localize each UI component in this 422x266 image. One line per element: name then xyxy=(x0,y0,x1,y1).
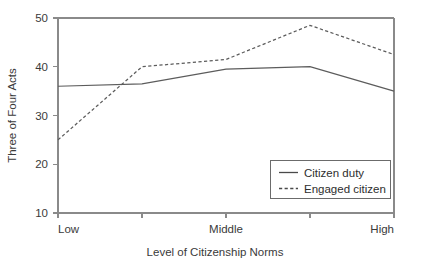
y-tick-label-50: 50 xyxy=(35,12,48,24)
chart-legend: Citizen duty Engaged citizen xyxy=(271,161,391,199)
y-tick-label-40: 40 xyxy=(35,61,48,73)
chart-figure: 50 40 30 20 10 Low Middle High Three of … xyxy=(0,0,422,266)
x-tick-label-low: Low xyxy=(58,223,80,235)
x-tick-label-middle: Middle xyxy=(209,223,243,235)
series-line-engaged-citizen xyxy=(58,25,394,140)
y-axis-title: Three of Four Acts xyxy=(6,68,18,163)
y-tick-label-20: 20 xyxy=(35,158,48,170)
x-axis-title: Level of Citizenship Norms xyxy=(147,246,284,258)
legend-label-engaged-citizen: Engaged citizen xyxy=(304,183,386,195)
y-tick-label-30: 30 xyxy=(35,110,48,122)
legend-label-citizen-duty: Citizen duty xyxy=(304,167,364,179)
series-line-citizen-duty xyxy=(58,67,394,91)
line-chart: 50 40 30 20 10 Low Middle High Three of … xyxy=(0,0,422,266)
y-tick-label-10: 10 xyxy=(35,207,48,219)
x-tick-label-high: High xyxy=(370,223,394,235)
